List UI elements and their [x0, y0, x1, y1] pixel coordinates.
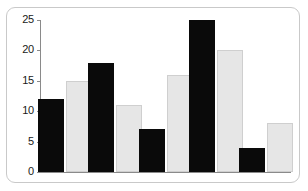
y-axis-tick-mark — [37, 172, 41, 173]
y-axis-tick-label: 25 — [14, 14, 34, 25]
y-axis-tick-mark — [37, 50, 41, 51]
y-axis-tick-label: 5 — [14, 136, 34, 147]
y-axis-tick-label: 20 — [14, 44, 34, 55]
bar — [267, 123, 293, 172]
y-axis-tick-label: 0 — [14, 166, 34, 177]
y-axis-tick-mark — [37, 81, 41, 82]
bar-chart-plot-area: 0510152025 — [0, 0, 308, 191]
y-axis-tick-label: 15 — [14, 75, 34, 86]
bar — [38, 99, 64, 172]
y-axis-tick-label: 10 — [14, 105, 34, 116]
bar — [139, 129, 165, 172]
bar — [239, 148, 265, 172]
bar — [88, 63, 114, 172]
y-axis-tick-mark — [37, 20, 41, 21]
x-axis-line — [40, 172, 291, 173]
bar — [189, 20, 215, 172]
